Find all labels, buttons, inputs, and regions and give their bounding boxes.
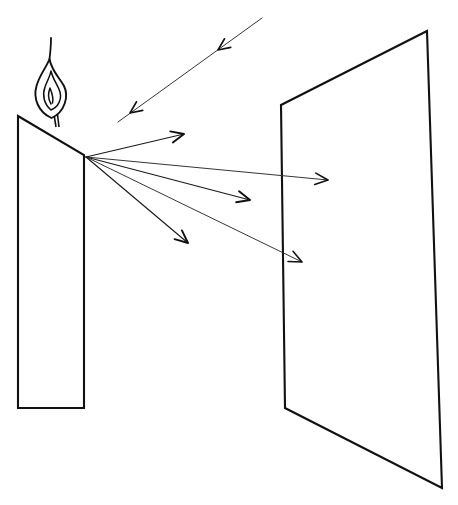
ray-incoming [118, 18, 262, 122]
light-ray-diagram [0, 0, 458, 505]
flame-tip-icon [50, 38, 52, 59]
ray-4-line [86, 157, 302, 262]
candle-body [18, 116, 84, 408]
ray-1 [86, 131, 184, 157]
ray-4 [86, 157, 302, 262]
ray-3-line [86, 157, 250, 200]
ray-incoming-line [118, 18, 262, 122]
screen-surface [281, 31, 442, 488]
ray-incoming-arrowhead-2 [130, 102, 143, 113]
ray-3 [86, 157, 250, 202]
ray-1-line [86, 134, 184, 157]
diagram-canvas [0, 0, 458, 505]
